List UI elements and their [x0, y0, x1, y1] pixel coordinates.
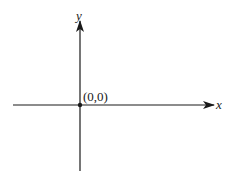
origin-point: [78, 103, 82, 107]
coordinate-axes-diagram: x y (0,0): [0, 0, 232, 183]
x-axis-label: x: [215, 97, 222, 112]
origin-label: (0,0): [83, 89, 108, 104]
y-axis-label: y: [74, 8, 82, 23]
